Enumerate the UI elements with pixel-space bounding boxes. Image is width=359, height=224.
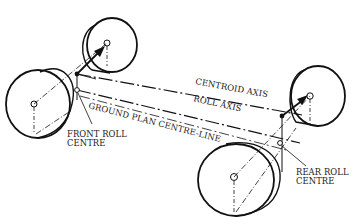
front-left-wheel bbox=[83, 18, 137, 73]
ground-plan-line bbox=[80, 96, 286, 150]
front-roll-centre-point bbox=[75, 88, 80, 93]
rear-roll-label-line2: CENTRE bbox=[296, 176, 334, 186]
rear-roll-leader bbox=[282, 146, 306, 166]
rear-roll-centre-point bbox=[278, 141, 283, 146]
front-roll-label-line2: CENTRE bbox=[67, 138, 105, 148]
roll-axis-label: ROLL AXIS bbox=[193, 93, 243, 113]
roll-axis-diagram: CENTROID AXIS ROLL AXIS GROUND PLAN CENT… bbox=[0, 0, 359, 224]
rear-left-wheel bbox=[290, 66, 345, 126]
rear-centroid-point bbox=[280, 114, 285, 119]
front-centroid-point bbox=[75, 72, 80, 77]
